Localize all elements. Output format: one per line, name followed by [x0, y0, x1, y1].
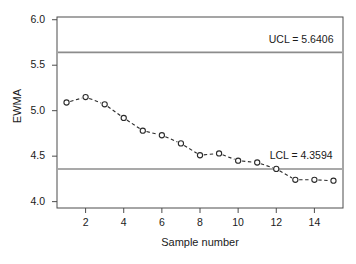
y-tick-label: 5.5: [15, 58, 45, 70]
x-tick-label: 8: [188, 216, 212, 228]
control-limit-annotation: LCL = 4.3594: [263, 149, 339, 161]
control-limit-annotation: UCL = 5.6406: [263, 33, 339, 45]
ewma-control-chart: EWMA Sample number 4.04.55.05.56.0 24681…: [0, 0, 356, 264]
y-tick-label: 5.0: [15, 104, 45, 116]
y-tick-label: 4.5: [15, 149, 45, 161]
y-tick-label: 4.0: [15, 195, 45, 207]
x-tick-label: 4: [112, 216, 136, 228]
x-tick-label: 6: [150, 216, 174, 228]
x-tick-label: 2: [74, 216, 98, 228]
x-axis-title: Sample number: [57, 236, 343, 248]
y-tick-label: 6.0: [15, 13, 45, 25]
x-tick-label: 12: [264, 216, 288, 228]
x-tick-label: 10: [226, 216, 250, 228]
x-tick-label: 14: [302, 216, 326, 228]
